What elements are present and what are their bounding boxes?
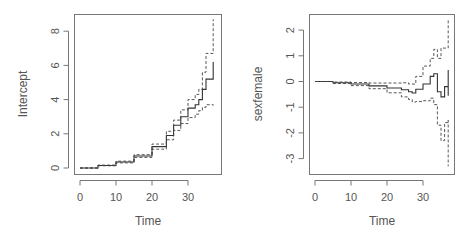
x-axis: 0102030 xyxy=(312,181,429,203)
estimate-line xyxy=(80,62,213,168)
y-axis: -3-2-1012 xyxy=(284,27,304,163)
y-tick-label: -1 xyxy=(284,102,296,112)
lower-ci-line xyxy=(315,82,448,167)
plot-frame xyxy=(310,15,455,175)
y-tick-label: 2 xyxy=(284,27,296,33)
x-tick-label: 0 xyxy=(312,191,318,203)
y-axis-label: Intercept xyxy=(16,70,30,117)
plot-lines xyxy=(80,19,213,168)
y-tick-label: 6 xyxy=(49,62,61,68)
y-tick-label: -3 xyxy=(284,154,296,164)
x-axis: 0102030 xyxy=(77,181,194,203)
y-tick-label: 4 xyxy=(49,97,61,103)
x-tick-label: 10 xyxy=(345,191,357,203)
x-axis-label: Time xyxy=(135,214,162,228)
x-tick-label: 0 xyxy=(77,191,83,203)
y-tick-label: -2 xyxy=(284,128,296,138)
figure: 0102030 02468 Time Intercept 0102030 -3-… xyxy=(0,0,470,241)
plot-lines xyxy=(315,20,448,166)
y-tick-label: 0 xyxy=(49,165,61,171)
x-tick-label: 20 xyxy=(146,191,158,203)
intercept-panel: 0102030 02468 Time Intercept xyxy=(16,15,222,229)
x-tick-label: 30 xyxy=(182,191,194,203)
y-tick-label: 1 xyxy=(284,53,296,59)
x-tick-label: 10 xyxy=(110,191,122,203)
sexfemale-panel: 0102030 -3-2-1012 Time sexfemale xyxy=(251,15,455,229)
y-tick-label: 2 xyxy=(49,131,61,137)
lower-ci-line xyxy=(80,105,213,168)
y-tick-label: 8 xyxy=(49,28,61,34)
y-axis: 02468 xyxy=(49,28,69,171)
upper-ci-line xyxy=(315,20,448,84)
x-tick-label: 20 xyxy=(381,191,393,203)
x-axis-label: Time xyxy=(369,214,396,228)
x-tick-label: 30 xyxy=(417,191,429,203)
upper-ci-line xyxy=(80,19,213,168)
plot-frame xyxy=(75,15,222,175)
y-axis-label: sexfemale xyxy=(251,66,265,121)
y-tick-label: 0 xyxy=(284,78,296,84)
